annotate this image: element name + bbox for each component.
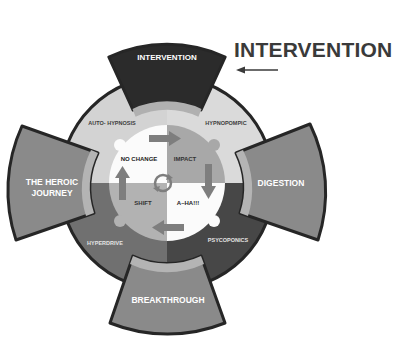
ring-label-hyperdrive: HYPERDRIVE <box>87 240 123 246</box>
ring-label-auto-hypnosis: AUTO- HYPNOSIS <box>88 120 136 126</box>
quadrant-label-aha: A–HA!!! <box>177 200 199 206</box>
flap-label-breakthrough: BREAKTHROUGH <box>131 295 204 305</box>
quadrant-label-no-change: NO CHANGE <box>121 156 158 162</box>
quadrant-label-impact: IMPACT <box>174 156 197 162</box>
flap-label-heroic-line1: THE HEROIC <box>26 177 78 187</box>
flap-label-intervention: INTERVENTION <box>137 53 197 62</box>
flap-label-heroic-line2: JOURNEY <box>31 188 72 198</box>
ring-label-hypnopompic: HYPNOPOMPIC <box>205 120 246 126</box>
left-arrow-icon <box>236 66 278 74</box>
flap-label-digestion: DIGESTION <box>258 178 305 188</box>
ring-label-psycoponics: PSYCOPONICS <box>208 237 249 243</box>
quadrant-label-shift: SHIFT <box>134 200 152 206</box>
side-label: INTERVENTION <box>234 38 392 62</box>
